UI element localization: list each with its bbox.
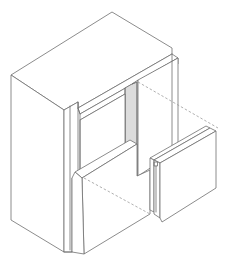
diagram-canvas [0,0,230,264]
panel-left-edge-1 [150,158,154,212]
sill-left-face [72,172,84,254]
panel-left-edge-2 [154,160,160,218]
wall-opening-diagram [0,0,230,264]
